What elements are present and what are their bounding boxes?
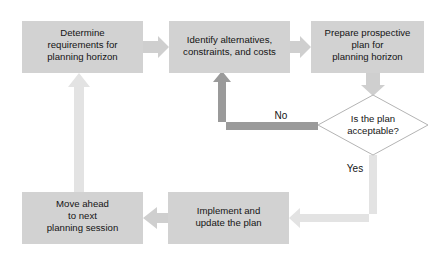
node-identify-alternatives[interactable]: Identify alternatives, constraints, and … — [169, 21, 290, 73]
node-move-ahead[interactable]: Move ahead to next planning session — [22, 192, 143, 244]
node-move-ahead-line-1: Move ahead — [56, 198, 109, 209]
node-determine-requirements-line-1: Determine — [60, 27, 104, 38]
node-prepare-plan-line-2: plan for — [352, 39, 385, 50]
arrow-determine-to-identify — [143, 36, 169, 58]
node-prepare-plan-line-3: planning horizon — [332, 51, 402, 62]
flowchart-canvas: Determine requirements for planning hori… — [0, 0, 445, 253]
node-plan-acceptable-line-1: Is the plan — [351, 113, 395, 124]
node-prepare-plan[interactable]: Prepare prospective plan for planning ho… — [311, 21, 424, 73]
arrow-implement-to-move-ahead — [143, 207, 168, 229]
node-move-ahead-line-2: to next — [68, 210, 97, 221]
arrow-yes-to-implement — [289, 155, 377, 228]
arrow-identify-to-prepare — [290, 36, 311, 58]
arrow-prepare-to-decision — [361, 73, 385, 96]
node-implement-update-line-2: update the plan — [195, 217, 261, 228]
node-implement-update-line-1: Implement and — [197, 205, 260, 216]
node-identify-alternatives-line-1: Identify alternatives, — [187, 34, 272, 45]
edge-label-yes: Yes — [347, 163, 363, 174]
node-prepare-plan-line-1: Prepare prospective — [325, 27, 411, 38]
node-plan-acceptable-line-2: acceptable? — [347, 125, 399, 136]
node-determine-requirements-line-2: requirements for — [48, 39, 119, 50]
node-determine-requirements-line-3: planning horizon — [47, 51, 117, 62]
node-identify-alternatives-line-2: constraints, and costs — [183, 46, 276, 57]
arrow-move-ahead-to-determine — [68, 73, 90, 192]
node-implement-update[interactable]: Implement and update the plan — [168, 192, 289, 244]
edge-label-no: No — [275, 110, 288, 121]
node-plan-acceptable-decision[interactable]: Is the plan acceptable? — [318, 95, 428, 155]
node-move-ahead-line-3: planning session — [47, 222, 118, 233]
arrow-no-feedback — [213, 71, 318, 130]
flowchart-svg: Determine requirements for planning hori… — [0, 0, 445, 253]
node-determine-requirements[interactable]: Determine requirements for planning hori… — [22, 21, 143, 73]
